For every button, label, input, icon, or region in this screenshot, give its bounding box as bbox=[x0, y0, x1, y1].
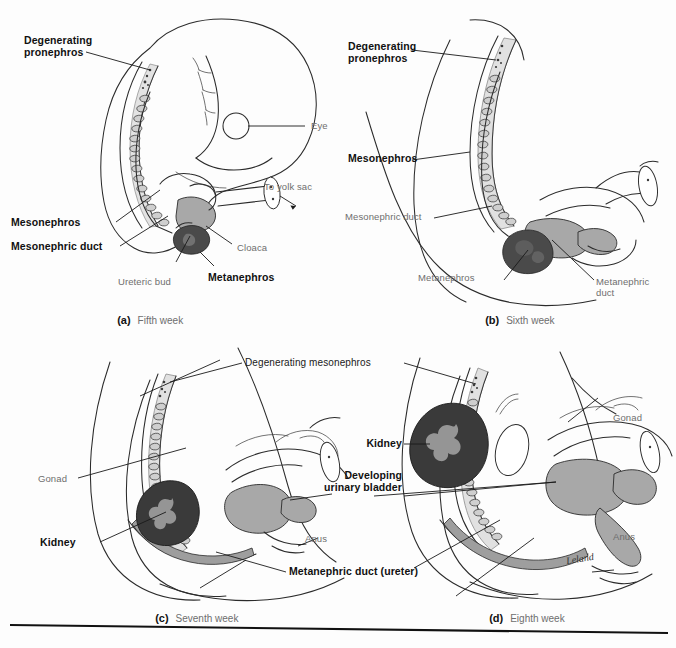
caption-letter-d: (d) bbox=[489, 612, 503, 624]
label-degenerating-pronephros-a: Degenerating pronephros bbox=[24, 34, 92, 59]
caption-text-b: Sixth week bbox=[506, 315, 554, 326]
label-mesonephros-b: Mesonephros bbox=[348, 152, 417, 164]
label-mesonephros-a: Mesonephros bbox=[11, 216, 80, 228]
figure-artwork: .ol { fill:none; stroke:#2b2b2b; stroke-… bbox=[0, 0, 676, 648]
caption-text-d: Eighth week bbox=[510, 613, 564, 624]
label-kidney-c: Kidney bbox=[40, 536, 76, 548]
caption-letter-a: (a) bbox=[117, 314, 130, 326]
caption-text-a: Fifth week bbox=[138, 315, 184, 326]
label-degenerating-pronephros-b: Degenerating pronephros bbox=[348, 40, 416, 65]
caption-text-c: Seventh week bbox=[176, 613, 239, 624]
label-metanephric-duct-ureter-shared: Metanephric duct (ureter) bbox=[289, 565, 418, 577]
label-gonad-c: Gonad bbox=[38, 473, 67, 484]
label-developing-urinary-bladder-shared: Developing urinary bladder bbox=[270, 469, 402, 494]
figure-page: .ol { fill:none; stroke:#2b2b2b; stroke-… bbox=[0, 0, 676, 648]
label-metanephros-b: Metanephros bbox=[418, 272, 475, 283]
label-mesonephric-duct-a: Mesonephric duct bbox=[11, 240, 102, 252]
label-metanephros-a: Metanephros bbox=[208, 271, 274, 283]
label-degenerating-mesonephros-shared: Degenerating mesonephros bbox=[245, 357, 371, 369]
label-gonad-d: Gonad bbox=[613, 412, 642, 423]
caption-panel-d: (d)Eighth week bbox=[478, 601, 565, 635]
label-mesonephric-duct-b: Mesonephric duct bbox=[345, 211, 422, 222]
bottom-rule bbox=[10, 625, 668, 633]
label-ureteric-bud-a: Ureteric bud bbox=[118, 276, 171, 287]
caption-panel-c: (c)Seventh week bbox=[144, 601, 238, 635]
caption-panel-a: (a)Fifth week bbox=[106, 303, 183, 337]
caption-letter-b: (b) bbox=[485, 314, 499, 326]
label-anus-c: Anus bbox=[305, 533, 327, 544]
caption-letter-c: (c) bbox=[155, 612, 168, 624]
label-cloaca-a: Cloaca bbox=[237, 242, 267, 253]
label-metanephric-duct-b: Metanephric duct bbox=[596, 276, 649, 298]
panel-d-artwork bbox=[374, 352, 672, 599]
caption-panel-b: (b)Sixth week bbox=[474, 303, 555, 337]
label-kidney-d: Kidney bbox=[318, 437, 402, 449]
label-to-yolk-sac-a: To yolk sac bbox=[264, 181, 312, 192]
label-eye-a: Eye bbox=[311, 120, 328, 131]
panel-a-artwork bbox=[86, 19, 316, 266]
label-anus-d: Anus bbox=[613, 531, 635, 542]
